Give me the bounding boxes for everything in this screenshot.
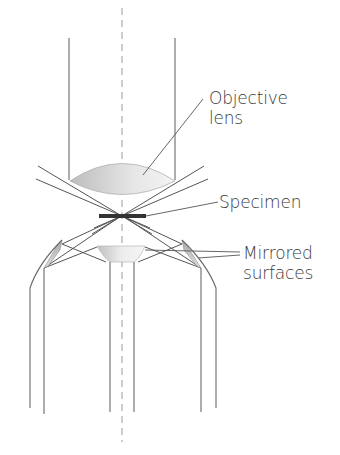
objective-label-line2: lens — [209, 108, 288, 128]
specimen-label: Specimen — [219, 192, 301, 212]
objective-lens — [70, 164, 175, 195]
specimen-leader — [146, 202, 218, 216]
diagram-canvas: Objective lens Specimen Mirrored surface… — [0, 0, 340, 455]
mirrored-surfaces-label: Mirrored surfaces — [243, 243, 313, 283]
specimen-slide — [99, 214, 146, 218]
objective-lens-label: Objective lens — [209, 88, 288, 128]
condenser-body — [30, 240, 216, 414]
objective-leader — [143, 99, 203, 175]
mirrored-label-line1: Mirrored — [243, 243, 313, 263]
specimen-label-text: Specimen — [219, 192, 301, 212]
optical-diagram — [0, 0, 340, 455]
objective-label-line1: Objective — [209, 88, 288, 108]
mirrored-label-line2: surfaces — [243, 263, 313, 283]
left-mirror — [44, 240, 62, 268]
condenser-reflector — [97, 246, 145, 262]
right-mirror — [182, 240, 201, 268]
